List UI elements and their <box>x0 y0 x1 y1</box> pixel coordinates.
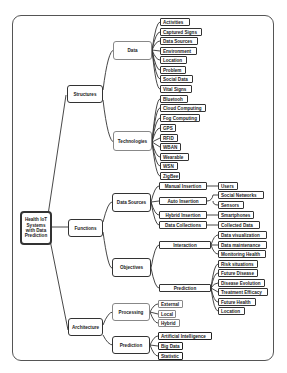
leaf-smartphones: Smartphones <box>218 211 254 219</box>
leaf-social-networks: Social Networks <box>218 191 264 199</box>
leaf-cloud-computing: Cloud Computing <box>160 104 206 112</box>
node-manual-insertion: Manual Insertion <box>159 182 207 190</box>
leaf-treatment-efficacy: Treatment Efficacy <box>218 288 268 296</box>
node-objectives: Objectives <box>112 258 151 277</box>
leaf-bluetooh: Bluetooh <box>160 95 188 103</box>
leaf-sensors: Sensors <box>218 201 244 209</box>
leaf-wban: WBAN <box>160 143 181 151</box>
node-data: Data <box>113 41 152 60</box>
leaf-hybrid: Hybrid <box>158 319 180 327</box>
leaf-wsn: WSN <box>160 162 178 170</box>
leaf-captured-signs: Captured Signs <box>160 28 202 36</box>
leaf-data-visualization: Data visualization <box>218 231 267 239</box>
leaf-artificial-intelligence: Artificial Intelligence <box>158 332 212 340</box>
leaf-location: Location <box>160 56 187 64</box>
leaf-wearable: Wearable <box>160 153 189 161</box>
leaf-gps: GPS <box>160 124 176 132</box>
node-data-collections: Data Collections <box>159 221 207 229</box>
leaf-collected-data: Collected Data <box>218 221 260 229</box>
leaf-vital-signs: Vital Signs <box>160 85 192 93</box>
leaf-big-data: Big Data <box>158 342 183 350</box>
leaf-external: External <box>158 300 183 308</box>
node-processing: Processing <box>112 303 150 321</box>
node-data-sources: Data Sources <box>112 193 151 212</box>
node-hybrid-insertion: Hybrid Insertion <box>159 211 207 219</box>
node-architecture: Architecture <box>68 318 103 336</box>
leaf-users: Users <box>218 182 238 190</box>
leaf-problem: Problem <box>160 66 186 74</box>
node-technologies: Technologies <box>113 131 152 151</box>
node-functions: Functions <box>68 219 103 237</box>
root-node: Health IoT Systems with Data Prediction <box>20 211 52 245</box>
leaf-statistic: Statistic <box>158 352 183 360</box>
leaf-future-health: Future Health <box>218 298 256 306</box>
leaf-monitoring-health: Monitoring Health <box>218 250 266 258</box>
leaf-data-maintenance: Data maintenance <box>218 241 267 249</box>
leaf-local: Local <box>158 310 176 318</box>
node-obj-prediction: Prediction <box>159 284 211 292</box>
leaf-risk-situations: Risk situations <box>218 260 258 268</box>
node-arch-prediction: Prediction <box>112 336 150 354</box>
leaf-location-2: Location <box>218 307 245 315</box>
node-auto-insertion: Auto Insertion <box>159 197 207 205</box>
node-structures: Structures <box>67 85 103 103</box>
leaf-disease-evolution: Disease Evolution <box>218 279 265 287</box>
leaf-activities: Activities <box>160 18 190 26</box>
leaf-zigbee: ZigBee <box>160 172 180 180</box>
leaf-future-disease: Future Disease <box>218 269 258 277</box>
leaf-environment: Environment <box>160 47 197 55</box>
leaf-fog-computing: Fog Computing <box>160 114 200 122</box>
leaf-rfid: RFID <box>160 134 178 142</box>
leaf-social-data: Social Data <box>160 75 193 83</box>
node-interaction: Interaction <box>159 241 211 249</box>
leaf-data-sources: Data Sources <box>160 37 198 45</box>
